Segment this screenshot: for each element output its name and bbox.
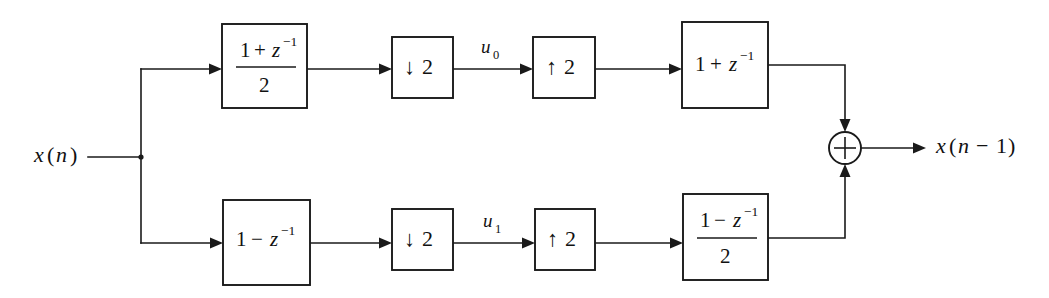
block-diagram-canvas: 1 + z −1 2 ↓ 2 u 0 ↑ 2 1 bbox=[0, 0, 1049, 298]
arrow-into-top-synthesis bbox=[669, 64, 682, 75]
signal-flow-diagram: 1 + z −1 2 ↓ 2 u 0 ↑ 2 1 bbox=[0, 0, 1049, 298]
block-bottom-downsampler[interactable]: ↓ 2 bbox=[392, 209, 453, 270]
bottom-subband-base: u bbox=[483, 210, 493, 231]
bottom-synthesis-num-op: − bbox=[714, 208, 726, 232]
bottom-synthesis-num-var: z bbox=[732, 208, 741, 232]
arrow-into-bottom-downsampler bbox=[379, 238, 392, 249]
bottom-synthesis-num-lead: 1 bbox=[700, 208, 711, 232]
top-upsampler-arrow-glyph: ↑ bbox=[546, 54, 557, 79]
bottom-subband-subscript: 1 bbox=[495, 222, 501, 236]
label-top-subband-signal: u 0 bbox=[481, 36, 499, 62]
top-downsampler-arrow-glyph: ↓ bbox=[404, 54, 415, 79]
bottom-downsampler-arrow-glyph: ↓ bbox=[404, 226, 415, 251]
top-synthesis-exp: −1 bbox=[740, 48, 754, 63]
input-label-paren-close: ) bbox=[70, 142, 77, 167]
output-label-paren-close: ) bbox=[1008, 133, 1015, 158]
input-label-paren-open: ( bbox=[47, 142, 54, 167]
block-top-downsampler[interactable]: ↓ 2 bbox=[392, 37, 453, 98]
split-node-dot bbox=[138, 154, 143, 159]
bottom-synthesis-denominator: 2 bbox=[720, 244, 731, 268]
top-synthesis-lead: 1 bbox=[695, 52, 706, 76]
bottom-synthesis-num-exp: −1 bbox=[744, 204, 758, 219]
summing-junction[interactable] bbox=[829, 132, 861, 164]
bottom-upsampler-arrow-glyph: ↑ bbox=[547, 226, 558, 251]
top-synthesis-var: z bbox=[728, 52, 737, 76]
arrow-into-adder-top bbox=[840, 119, 851, 132]
input-label: x ( n ) bbox=[33, 142, 77, 167]
arrow-into-top-upsampler bbox=[520, 64, 533, 75]
bottom-analysis-var: z bbox=[269, 227, 278, 251]
label-bottom-subband-signal: u 1 bbox=[483, 210, 501, 236]
bottom-downsampler-factor: 2 bbox=[422, 226, 433, 251]
top-analysis-num-var: z bbox=[271, 38, 280, 62]
top-analysis-num-lead: 1 bbox=[240, 38, 251, 62]
top-analysis-denominator: 2 bbox=[259, 73, 270, 97]
arrow-into-bottom-analysis bbox=[210, 238, 223, 249]
output-label: x ( n − 1 ) bbox=[935, 133, 1015, 158]
top-subband-base: u bbox=[481, 36, 491, 57]
output-label-delay: 1 bbox=[996, 133, 1007, 158]
bottom-analysis-lead: 1 bbox=[236, 227, 247, 251]
wire-bottom-synthesis-to-adder bbox=[768, 172, 845, 238]
top-upsampler-factor: 2 bbox=[564, 54, 575, 79]
arrow-into-bottom-synthesis bbox=[670, 238, 683, 249]
block-top-analysis-filter[interactable]: 1 + z −1 2 bbox=[222, 24, 307, 108]
arrow-to-output-label bbox=[913, 143, 926, 154]
output-label-var: n bbox=[958, 133, 969, 158]
input-label-var: n bbox=[56, 142, 67, 167]
arrow-into-bottom-upsampler bbox=[522, 238, 535, 249]
bottom-upsampler-factor: 2 bbox=[565, 226, 576, 251]
top-synthesis-op: + bbox=[710, 52, 722, 76]
top-downsampler-factor: 2 bbox=[422, 54, 433, 79]
output-label-minus: − bbox=[976, 133, 988, 158]
output-label-x: x bbox=[935, 133, 946, 158]
top-analysis-num-op: + bbox=[254, 38, 266, 62]
wire-top-synthesis-to-adder bbox=[768, 65, 845, 124]
block-bottom-analysis-filter[interactable]: 1 − z −1 bbox=[223, 200, 310, 285]
top-analysis-num-exp: −1 bbox=[283, 34, 297, 49]
output-label-paren-open: ( bbox=[949, 133, 956, 158]
input-label-x: x bbox=[33, 142, 44, 167]
block-top-synthesis-filter[interactable]: 1 + z −1 bbox=[682, 22, 768, 108]
bottom-analysis-exp: −1 bbox=[281, 223, 295, 238]
block-bottom-synthesis-filter[interactable]: 1 − z −1 2 bbox=[683, 194, 768, 280]
block-top-upsampler[interactable]: ↑ 2 bbox=[533, 37, 595, 98]
arrow-into-top-downsampler bbox=[379, 64, 392, 75]
bottom-analysis-op: − bbox=[251, 227, 263, 251]
top-subband-subscript: 0 bbox=[493, 48, 499, 62]
arrow-into-adder-bottom bbox=[840, 164, 851, 177]
arrow-into-top-analysis bbox=[209, 64, 222, 75]
block-bottom-upsampler[interactable]: ↑ 2 bbox=[535, 209, 595, 270]
